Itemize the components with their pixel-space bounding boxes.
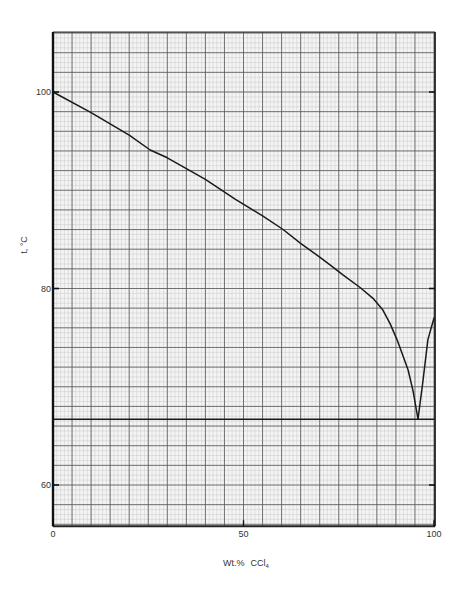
y-tick-label: 100: [36, 87, 51, 97]
y-tick-label: 80: [41, 284, 51, 294]
phase-diagram-chart: 6080100050100 Wt.%CCl4 t, °C: [0, 0, 463, 593]
y-tick-label: 60: [41, 480, 51, 490]
x-tick-label: 0: [50, 529, 55, 539]
x-tick-label: 50: [238, 529, 248, 539]
x-tick-label: 100: [426, 529, 441, 539]
y-axis-label: t, °C: [19, 236, 29, 254]
